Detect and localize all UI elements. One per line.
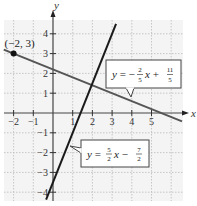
fraction-denominator: 5 bbox=[138, 76, 142, 84]
fraction-numerator: 7 bbox=[137, 146, 141, 154]
x-tick-label: 2 bbox=[90, 116, 95, 127]
point-label: (−2, 3) bbox=[5, 37, 35, 50]
fraction-denominator: 2 bbox=[137, 155, 141, 163]
x-tick-label: −1 bbox=[28, 116, 39, 127]
y-tick-label: −3 bbox=[37, 167, 48, 178]
y-tick-label: 2 bbox=[43, 68, 48, 79]
x-tick-label: 5 bbox=[149, 116, 154, 127]
fraction-denominator: 5 bbox=[168, 76, 172, 84]
x-axis-arrow-icon bbox=[182, 111, 189, 116]
y-tick-label: 1 bbox=[43, 88, 48, 99]
y-tick-label: −1 bbox=[37, 127, 48, 138]
x-tick-label: 4 bbox=[129, 116, 134, 127]
callout-steep-line: y = 52x − 72 bbox=[70, 140, 149, 167]
y-tick-label: 4 bbox=[43, 28, 48, 39]
y-axis-label: y bbox=[53, 0, 59, 11]
point-marker bbox=[11, 51, 17, 57]
equation-lhs: y = bbox=[86, 148, 101, 160]
equation-mid: x − bbox=[113, 148, 128, 160]
y-tick-label: 3 bbox=[43, 48, 48, 59]
fraction-numerator: 11 bbox=[167, 66, 174, 74]
fraction-numerator: 2 bbox=[138, 66, 142, 74]
x-tick-label: 3 bbox=[110, 116, 115, 127]
x-tick-label: −2 bbox=[8, 116, 19, 127]
equation-lhs: y = − bbox=[111, 68, 135, 80]
fraction-numerator: 5 bbox=[107, 146, 111, 154]
graph: x y −2−1123454321−1−2−3−4 (−2, 3) y = −2… bbox=[0, 0, 197, 206]
x-axis-label: x bbox=[190, 107, 196, 119]
equation-mid: x + bbox=[144, 68, 159, 80]
x-tick-label: 1 bbox=[70, 116, 75, 127]
y-axis-arrow-icon bbox=[51, 10, 56, 17]
y-tick-label: −4 bbox=[37, 187, 48, 198]
fraction-denominator: 2 bbox=[107, 155, 111, 163]
y-tick-label: −2 bbox=[37, 147, 48, 158]
